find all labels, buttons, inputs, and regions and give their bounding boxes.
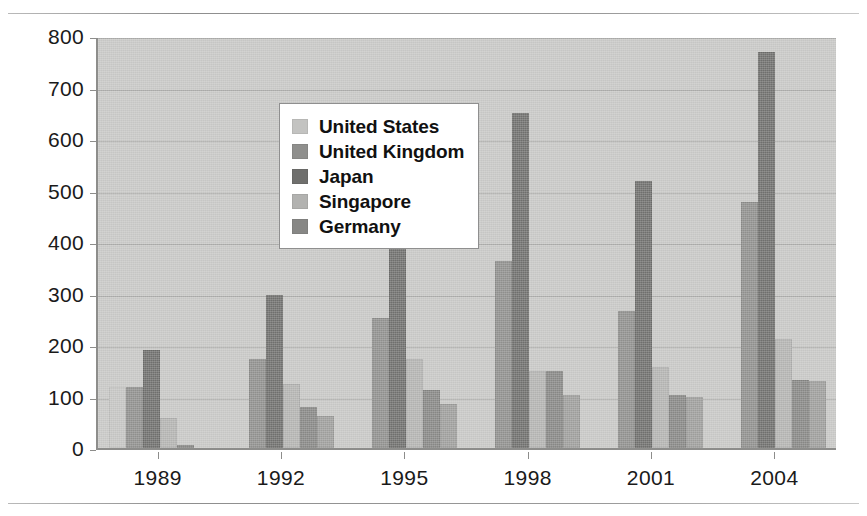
plot-wrapper: United StatesUnited KingdomJapanSingapor… — [96, 38, 836, 450]
legend-swatch-icon — [292, 219, 308, 234]
legend-item: United Kingdom — [292, 139, 466, 164]
bottom-rule — [8, 503, 859, 504]
bar — [283, 384, 300, 448]
y-axis-tick-label: 300 — [14, 283, 84, 307]
x-axis-tick-mark — [158, 452, 159, 459]
bar — [686, 397, 703, 449]
bar — [300, 407, 317, 448]
bar-group — [478, 38, 580, 448]
bar — [792, 380, 809, 448]
legend-item: Germany — [292, 214, 466, 239]
figure: United StatesUnited KingdomJapanSingapor… — [0, 0, 867, 516]
bar — [160, 418, 177, 448]
bar — [529, 371, 546, 448]
y-axis-tick-label: 400 — [14, 231, 84, 255]
y-axis-tick-label: 500 — [14, 180, 84, 204]
x-axis: 198919921995199820012004 — [96, 452, 836, 496]
legend-item: Singapore — [292, 189, 466, 214]
bar — [406, 359, 423, 448]
bar-group — [601, 38, 703, 448]
y-axis-tick-label: 0 — [14, 437, 84, 461]
y-axis-tick-label: 800 — [14, 25, 84, 49]
bar — [775, 339, 792, 448]
bar — [618, 311, 635, 449]
y-axis-tick-mark — [90, 450, 96, 451]
y-axis-tick-label: 100 — [14, 386, 84, 410]
bar-group — [724, 38, 826, 448]
bar — [372, 318, 389, 448]
y-axis-tick-mark — [90, 90, 96, 91]
legend-swatch-icon — [292, 169, 308, 184]
y-axis-tick-mark — [90, 399, 96, 400]
bar — [126, 387, 143, 448]
legend-swatch-icon — [292, 119, 308, 134]
x-axis-tick: 1998 — [466, 452, 589, 496]
bar-group — [109, 38, 211, 448]
bar — [440, 404, 457, 448]
bar — [809, 381, 826, 448]
bar — [109, 387, 126, 448]
bar — [249, 359, 266, 448]
bar — [495, 261, 512, 448]
x-axis-tick: 1995 — [343, 452, 466, 496]
x-axis-tick-label: 2001 — [589, 466, 712, 490]
legend-swatch-icon — [292, 144, 308, 159]
y-axis-tick-mark — [90, 347, 96, 348]
y-axis-tick-label: 600 — [14, 128, 84, 152]
bar — [758, 52, 775, 448]
x-axis-tick-label: 1998 — [466, 466, 589, 490]
x-axis-tick-label: 1989 — [96, 466, 219, 490]
top-rule — [8, 13, 859, 14]
x-axis-tick-mark — [651, 452, 652, 459]
bar — [669, 395, 686, 448]
x-axis-tick-mark — [774, 452, 775, 459]
y-axis-tick-mark — [90, 141, 96, 142]
legend: United StatesUnited KingdomJapanSingapor… — [279, 103, 479, 249]
legend-swatch-icon — [292, 194, 308, 209]
bar — [741, 202, 758, 448]
legend-item-label: United Kingdom — [319, 141, 464, 163]
bar — [512, 113, 529, 448]
legend-item: United States — [292, 114, 466, 139]
y-axis-tick-mark — [90, 244, 96, 245]
bar — [635, 181, 652, 448]
bar — [317, 416, 334, 448]
bar — [177, 445, 194, 448]
x-axis-tick-mark — [404, 452, 405, 459]
bar — [563, 395, 580, 448]
bar — [143, 350, 160, 448]
x-axis-tick: 1989 — [96, 452, 219, 496]
legend-item: Japan — [292, 164, 466, 189]
y-axis-tick-mark — [90, 38, 96, 39]
bar — [546, 371, 563, 448]
x-axis-tick-mark — [528, 452, 529, 459]
x-axis-tick-mark — [281, 452, 282, 459]
y-axis-tick-mark — [90, 296, 96, 297]
y-axis-tick-mark — [90, 193, 96, 194]
y-axis-tick-label: 700 — [14, 77, 84, 101]
legend-item-label: Japan — [319, 166, 373, 188]
x-axis-tick: 1992 — [219, 452, 342, 496]
bar — [652, 367, 669, 448]
x-axis-tick-label: 1995 — [343, 466, 466, 490]
x-axis-tick: 2001 — [589, 452, 712, 496]
legend-item-label: Singapore — [319, 191, 411, 213]
legend-item-label: United States — [319, 116, 439, 138]
bar — [423, 390, 440, 448]
legend-item-label: Germany — [319, 216, 401, 238]
x-axis-tick-label: 1992 — [219, 466, 342, 490]
bar — [266, 295, 283, 448]
y-axis-tick-label: 200 — [14, 334, 84, 358]
x-axis-tick: 2004 — [713, 452, 836, 496]
x-axis-tick-label: 2004 — [713, 466, 836, 490]
